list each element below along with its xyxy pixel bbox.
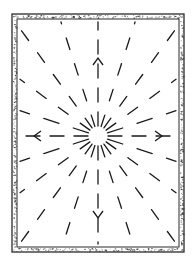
field-lines-diagram	[0, 0, 195, 268]
radial-field-lines	[20, 22, 176, 244]
diagram-canvas	[0, 0, 195, 268]
arrowhead-down-icon	[93, 211, 103, 218]
